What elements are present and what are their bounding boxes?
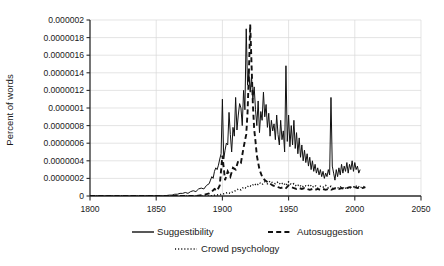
y-tick-label: 0.000001 xyxy=(48,103,84,113)
y-tick-label: 0.0000018 xyxy=(43,33,84,43)
legend-label-autosuggestion: Autosuggestion xyxy=(297,226,363,237)
y-tick-label: 0.0000014 xyxy=(43,68,84,78)
y-tick-label: 0.0000002 xyxy=(43,173,84,183)
chart-figure: 00.00000020.00000040.00000060.00000080.0… xyxy=(0,0,444,266)
x-tick-label: 1850 xyxy=(147,204,166,214)
x-tick-label: 1900 xyxy=(213,204,232,214)
x-tick-label: 2000 xyxy=(345,204,364,214)
legend-label-crowd-psychology: Crowd psychology xyxy=(201,243,280,254)
x-tick-label: 2050 xyxy=(411,204,430,214)
y-tick-label: 0.0000016 xyxy=(43,50,84,60)
y-tick-label: 0 xyxy=(79,191,84,201)
y-tick-label: 0.0000004 xyxy=(43,156,84,166)
x-tick-label: 1950 xyxy=(279,204,298,214)
y-tick-label: 0.000002 xyxy=(48,15,84,25)
x-tick-label: 1800 xyxy=(80,204,99,214)
y-tick-label: 0.0000006 xyxy=(43,138,84,148)
y-axis-title: Percent of words xyxy=(4,74,15,146)
percent-of-words-line-chart: 00.00000020.00000040.00000060.00000080.0… xyxy=(0,0,444,266)
y-tick-label: 0.0000008 xyxy=(43,121,84,131)
legend-label-suggestibility: Suggestibility xyxy=(157,226,214,237)
y-tick-label: 0.0000012 xyxy=(43,85,84,95)
